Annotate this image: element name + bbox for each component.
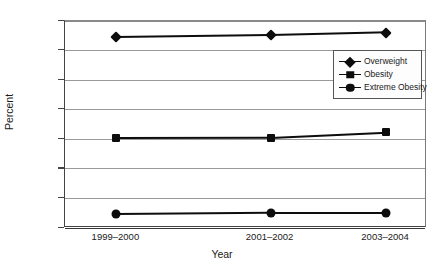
legend-circle-icon xyxy=(339,82,361,94)
x-tick-label-1: 2001–2002 xyxy=(246,231,294,242)
data-point-marker xyxy=(382,208,391,217)
x-tick-label-0: 1999–2000 xyxy=(92,231,140,242)
line-segment xyxy=(116,212,270,215)
legend-marker xyxy=(346,83,355,92)
legend-marker xyxy=(345,56,356,67)
legend-label: Extreme Obesity xyxy=(364,83,427,92)
chart-legend: OverweightObesityExtreme Obesity xyxy=(333,50,422,99)
x-tick-label-2: 2003–2004 xyxy=(361,231,409,242)
legend-item-overweight[interactable]: Overweight xyxy=(339,55,416,68)
x-axis-title: Year xyxy=(0,248,444,260)
legend-item-obesity[interactable]: Obesity xyxy=(339,68,416,81)
legend-label: Overweight xyxy=(364,57,407,66)
data-point-marker xyxy=(266,208,275,217)
legend-item-extreme-obesity[interactable]: Extreme Obesity xyxy=(339,81,416,94)
chart-figure: Percent 010203040506070 1999–20002001–20… xyxy=(0,0,444,266)
data-point-marker xyxy=(112,210,121,219)
legend-marker xyxy=(346,71,354,79)
legend-square-icon xyxy=(339,69,361,81)
line-segment xyxy=(271,212,386,214)
gridline-0 xyxy=(65,228,425,229)
legend-diamond-icon xyxy=(339,56,361,68)
y-axis-title: Percent xyxy=(3,94,15,130)
legend-label: Obesity xyxy=(364,70,393,79)
